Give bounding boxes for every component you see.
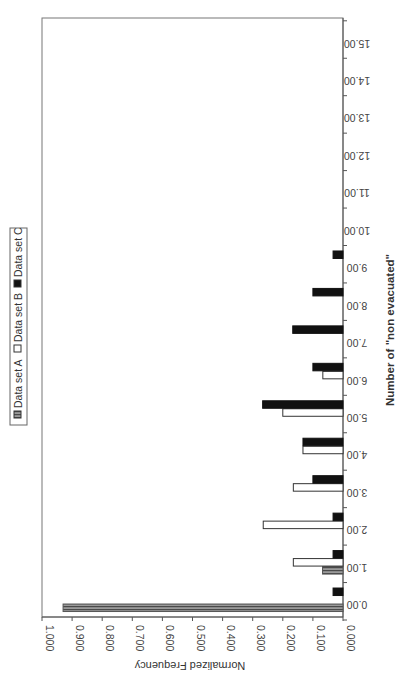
bar-data-set-c (313, 476, 343, 484)
category-tick-label: 11.00 (344, 187, 370, 199)
chart-figure: 0.0000.1000.2000.3000.4000.5000.6000.700… (0, 0, 405, 675)
value-tick-label: 1.000 (44, 625, 56, 651)
bar-data-set-b (323, 371, 343, 379)
bar-data-set-c (313, 288, 343, 296)
value-axis-title: Normalized Frequency (134, 660, 245, 672)
bar-data-set-c (333, 588, 343, 596)
value-tick-label: 0.200 (285, 625, 297, 651)
legend: Data set AData set BData set C (10, 227, 27, 425)
category-tick-label: 6.00 (347, 375, 368, 387)
legend-label: Data set B (12, 293, 24, 342)
category-tick-label: 12.00 (344, 150, 370, 162)
category-axis-title: Number of "non evacuated" (384, 254, 396, 406)
bar-data-set-b (263, 521, 343, 529)
value-axis: 0.0000.1000.2000.3000.4000.5000.6000.700… (42, 617, 357, 651)
legend-swatch-icon (14, 345, 21, 352)
category-tick-label: 8.00 (347, 300, 368, 312)
category-tick-label: 14.00 (344, 75, 370, 87)
category-tick-label: 5.00 (347, 412, 368, 424)
bar-data-set-c (293, 326, 343, 334)
category-tick-label: 13.00 (344, 112, 370, 124)
bar-data-set-b (283, 409, 343, 417)
value-tick-label: 0.000 (345, 625, 357, 651)
bar-data-set-c (303, 438, 343, 446)
value-tick-label: 0.500 (195, 625, 207, 651)
category-axis: 0.001.002.003.004.005.006.007.008.009.00… (343, 18, 370, 620)
category-tick-label: 2.00 (347, 524, 368, 536)
bar-data-set-c (333, 251, 343, 259)
category-tick-label: 15.00 (344, 38, 370, 50)
value-tick-label: 0.900 (74, 625, 86, 651)
category-tick-label: 7.00 (347, 337, 368, 349)
legend-label: Data set C (12, 227, 24, 277)
value-tick-label: 0.100 (315, 625, 327, 651)
value-tick-label: 0.400 (225, 625, 237, 651)
bar-data-set-c (313, 363, 343, 371)
bar-chart: 0.0000.1000.2000.3000.4000.5000.6000.700… (0, 0, 405, 675)
bar-data-set-b (293, 559, 343, 567)
category-tick-label: 1.00 (347, 562, 368, 574)
legend-swatch-icon (14, 280, 21, 287)
bar-data-set-c (263, 401, 343, 409)
bar-data-set-c (333, 513, 343, 521)
bar-data-set-a (323, 567, 343, 575)
category-tick-label: 10.00 (344, 225, 370, 237)
value-tick-label: 0.700 (134, 625, 146, 651)
category-tick-label: 3.00 (347, 487, 368, 499)
category-tick-label: 9.00 (347, 262, 368, 274)
legend-label: Data set A (12, 360, 24, 408)
bar-data-set-a (63, 604, 343, 612)
value-tick-label: 0.300 (255, 625, 267, 651)
bar-data-set-b (293, 484, 343, 492)
legend-swatch-icon (14, 411, 21, 418)
value-tick-label: 0.800 (104, 625, 116, 651)
bar-data-set-b (303, 446, 343, 454)
category-tick-label: 0.00 (347, 599, 368, 611)
value-tick-label: 0.600 (164, 625, 176, 651)
category-tick-label: 4.00 (347, 449, 368, 461)
bar-data-set-c (333, 551, 343, 559)
